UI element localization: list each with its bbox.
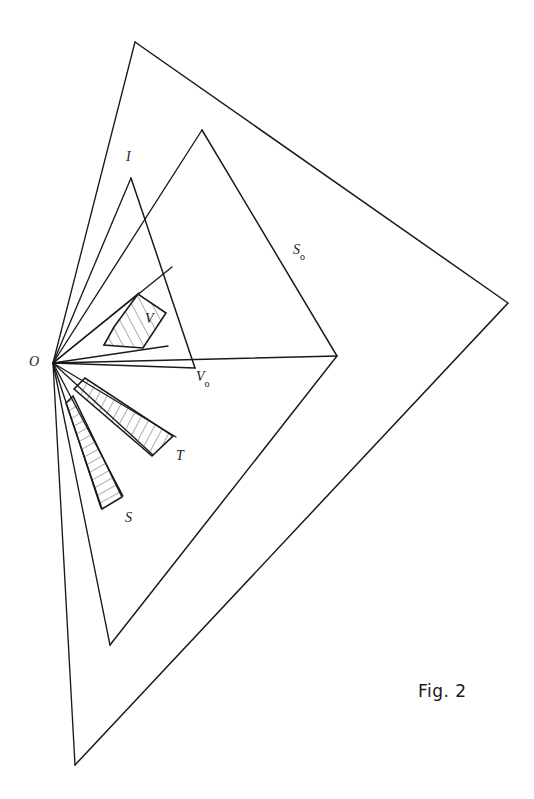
figure-2-container: O I So V Vo T S Fig. 2 — [0, 0, 534, 799]
ray-lower-outer — [53, 363, 75, 765]
label-T: T — [176, 449, 184, 463]
label-I-text: I — [126, 149, 131, 164]
label-V0-text: V — [196, 369, 205, 384]
chevron-S0-outer — [75, 42, 508, 765]
label-S: S — [125, 511, 132, 525]
chevron-S0-inner — [110, 130, 337, 645]
label-I: I — [126, 150, 131, 164]
hatched-sector-group — [66, 294, 173, 509]
figure-caption: Fig. 2 — [418, 681, 467, 701]
chevron-group — [75, 42, 508, 765]
label-S0: So — [293, 243, 305, 260]
label-V0: Vo — [196, 370, 210, 387]
label-S0-subscript: o — [300, 251, 305, 262]
label-S-text: S — [125, 510, 132, 525]
ray-V0-apex — [53, 363, 195, 368]
sector-V — [104, 294, 166, 348]
label-O-text: O — [29, 354, 39, 369]
figure-2-drawing — [0, 0, 534, 799]
label-S0-text: S — [293, 242, 300, 257]
label-V0-subscript: o — [205, 378, 210, 389]
label-V-text: V — [145, 311, 154, 326]
label-V: V — [145, 312, 154, 326]
label-T-text: T — [176, 448, 184, 463]
label-O: O — [29, 355, 39, 369]
